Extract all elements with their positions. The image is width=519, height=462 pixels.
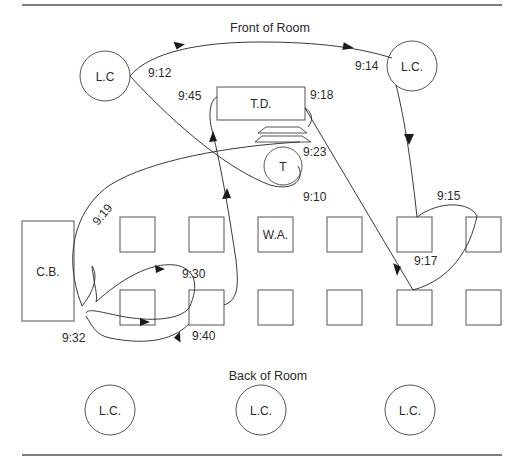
timestamp-940: 9:40 [192, 329, 216, 343]
diagram-canvas: Front of Room L.C L.C. T.D. T C.B. W.A. [0, 0, 519, 462]
teacher-table: T [264, 147, 302, 185]
timestamp-919: 9:19 [90, 201, 116, 228]
lc-back-2: L.C. [236, 385, 286, 435]
path-desk-to-td-945 [210, 97, 237, 305]
arrow-head [209, 131, 217, 142]
chalkboard-label: C.B. [36, 265, 59, 279]
arrow-head [404, 134, 414, 145]
desk [327, 217, 362, 252]
arrow-head [342, 42, 354, 52]
arrow-head [174, 40, 186, 49]
back-of-room-label: Back of Room [229, 369, 308, 383]
path-t-to-lc-left [130, 76, 300, 187]
lc-front-left: L.C [80, 51, 130, 101]
timestamp-945: 9:45 [178, 89, 202, 103]
lc-back-1: L.C. [85, 385, 135, 435]
front-of-room-label: Front of Room [230, 21, 310, 35]
arrow-head [222, 188, 231, 199]
path-desk-loop [413, 205, 477, 290]
classroom-diagram: Front of Room L.C L.C. T.D. T C.B. W.A. [0, 0, 519, 462]
desk [189, 217, 224, 252]
lc-back-1-label: L.C. [99, 404, 121, 418]
desk [397, 290, 432, 325]
desk [327, 290, 362, 325]
path-lc-right-to-desk [396, 85, 417, 217]
arrow-head [155, 265, 165, 273]
desk-row-2 [120, 290, 501, 325]
lc-front-right: L.C. [387, 41, 437, 91]
lc-back-2-label: L.C. [250, 404, 272, 418]
chair-shape-lower [255, 136, 311, 142]
timestamp-910: 9:10 [303, 190, 327, 204]
desk [120, 217, 155, 252]
desk-row-1: W.A. [120, 217, 501, 252]
desk [258, 290, 293, 325]
lc-front-right-label: L.C. [401, 60, 423, 74]
chair-shape-upper [258, 127, 307, 133]
timestamp-915: 9:15 [437, 189, 461, 203]
timestamp-914: 9:14 [355, 59, 379, 73]
teacher-desk-label: T.D. [250, 97, 271, 111]
path-cb-loop [82, 265, 195, 320]
lc-back-3: L.C. [385, 385, 435, 435]
timestamp-932: 9:32 [62, 331, 86, 345]
timestamp-923: 9:23 [303, 145, 327, 159]
chalkboard: C.B. [22, 221, 74, 321]
arrow-head [173, 332, 184, 344]
timestamp-930: 9:30 [182, 267, 206, 281]
path-td-to-cb [73, 142, 300, 306]
path-cb-to-desk-940 [86, 316, 189, 341]
desk [397, 217, 432, 252]
timestamp-917: 9:17 [414, 254, 438, 268]
timestamp-918: 9:18 [310, 88, 334, 102]
lc-back-3-label: L.C. [399, 404, 421, 418]
teacher-table-label: T [279, 160, 287, 174]
desk [189, 290, 224, 325]
lc-front-left-label: L.C [96, 70, 115, 84]
timestamp-912: 9:12 [148, 66, 172, 80]
desk [466, 290, 501, 325]
desk-wa-label: W.A. [263, 228, 288, 242]
teacher-desk: T.D. [217, 87, 305, 120]
